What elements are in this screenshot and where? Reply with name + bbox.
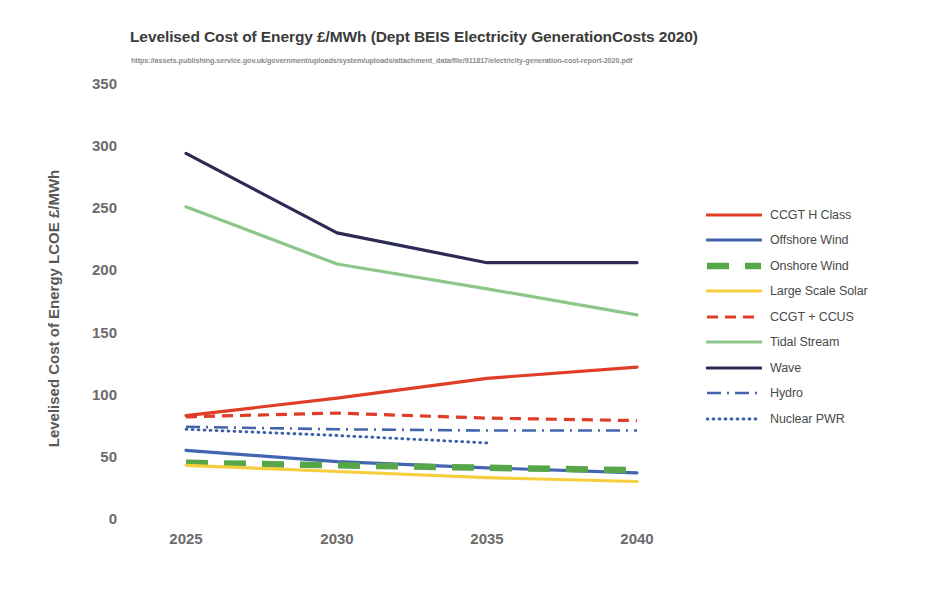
- legend-swatch-icon: [706, 362, 762, 374]
- legend-label: Offshore Wind: [770, 233, 848, 247]
- legend-item[interactable]: Nuclear PWR: [706, 406, 931, 432]
- legend-item[interactable]: Tidal Stream: [706, 330, 931, 356]
- legend-label: Hydro: [770, 386, 803, 400]
- legend-item[interactable]: Hydro: [706, 381, 931, 407]
- chart-legend: CCGT H ClassOffshore WindOnshore WindLar…: [706, 202, 931, 432]
- legend-label: Wave: [770, 361, 801, 375]
- legend-label: Nuclear PWR: [770, 412, 845, 426]
- legend-label: Onshore Wind: [770, 259, 849, 273]
- series-line: [186, 413, 637, 421]
- legend-item[interactable]: Large Scale Solar: [706, 279, 931, 305]
- series-line: [186, 207, 637, 315]
- legend-item[interactable]: Offshore Wind: [706, 228, 931, 254]
- legend-label: CCGT H Class: [770, 208, 851, 222]
- legend-swatch-icon: [706, 336, 762, 348]
- legend-label: CCGT + CCUS: [770, 310, 854, 324]
- legend-label: Tidal Stream: [770, 335, 839, 349]
- legend-label: Large Scale Solar: [770, 284, 868, 298]
- series-line: [186, 427, 637, 431]
- legend-swatch-icon: [706, 234, 762, 246]
- chart-container: Levelised Cost of Energy £/MWh (Dept BEI…: [0, 0, 931, 596]
- legend-item[interactable]: Onshore Wind: [706, 253, 931, 279]
- legend-swatch-icon: [706, 413, 762, 425]
- legend-item[interactable]: CCGT + CCUS: [706, 304, 931, 330]
- legend-item[interactable]: CCGT H Class: [706, 202, 931, 228]
- series-line: [186, 367, 637, 416]
- legend-swatch-icon: [706, 387, 762, 399]
- legend-swatch-icon: [706, 285, 762, 297]
- legend-swatch-icon: [706, 260, 762, 272]
- series-line: [186, 153, 637, 262]
- legend-swatch-icon: [706, 209, 762, 221]
- legend-item[interactable]: Wave: [706, 355, 931, 381]
- legend-swatch-icon: [706, 311, 762, 323]
